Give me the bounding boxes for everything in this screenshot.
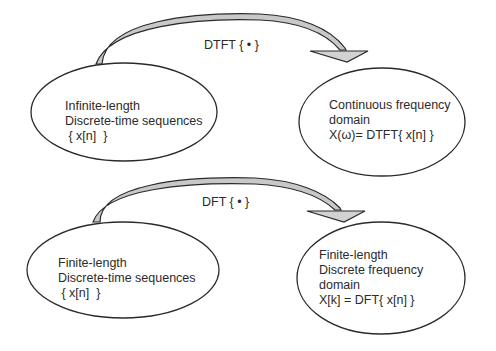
- node-line: Continuous frequency: [329, 98, 451, 113]
- infinite-length-sequence-text: Infinite-length Discrete-time sequences …: [65, 99, 203, 144]
- dft-label: DFT { • }: [202, 195, 249, 210]
- node-line: domain: [319, 278, 423, 293]
- continuous-frequency-domain-text: Continuous frequency domain X(ω)= DTFT{ …: [329, 98, 451, 143]
- node-line: X(ω)= DTFT{ x[n] }: [329, 128, 451, 143]
- node-line: domain: [329, 113, 451, 128]
- node-line: Finite-length: [319, 248, 423, 263]
- node-line: { x[n] }: [65, 129, 203, 144]
- node-line: Discrete-time sequences: [58, 271, 196, 286]
- dtft-label: DTFT { • }: [204, 38, 259, 53]
- discrete-frequency-domain-text: Finite-length Discrete frequency domain …: [319, 248, 423, 308]
- dft-label-text: DFT { • }: [202, 195, 249, 210]
- node-line: Discrete frequency: [319, 263, 423, 278]
- node-line: X[k] = DFT{ x[n] }: [319, 293, 423, 308]
- dtft-label-text: DTFT { • }: [204, 38, 259, 53]
- node-line: Discrete-time sequences: [65, 114, 203, 129]
- finite-length-sequence-text: Finite-length Discrete-time sequences { …: [58, 256, 196, 301]
- node-line: Finite-length: [58, 256, 196, 271]
- node-line: { x[n] }: [58, 286, 196, 301]
- node-line: Infinite-length: [65, 99, 203, 114]
